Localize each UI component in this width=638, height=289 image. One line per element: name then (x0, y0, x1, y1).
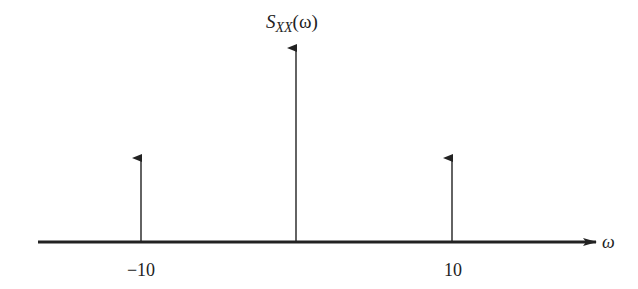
tick-label-neg10: −10 (127, 260, 155, 280)
x-axis-label: ω (602, 232, 615, 252)
tick-label-pos10: 10 (444, 260, 462, 280)
psd-impulse-diagram: SXX(ω) ω −10 10 (0, 0, 638, 289)
y-axis-label: SXX(ω) (266, 11, 318, 35)
